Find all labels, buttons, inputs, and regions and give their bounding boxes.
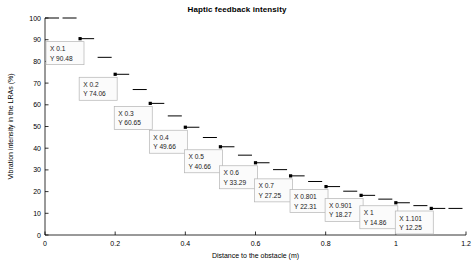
data-point-marker[interactable] — [394, 201, 397, 204]
data-point-marker[interactable] — [430, 207, 433, 210]
data-tip-x-value: X 0.901 — [329, 202, 352, 209]
data-tip[interactable]: X 0.3Y 60.65 — [114, 106, 152, 129]
data-tip[interactable]: X 0.901Y 18.27 — [325, 198, 363, 221]
x-axis-tick-label: 0.4 — [180, 240, 190, 247]
x-axis-title: Distance to the obstacle (m) — [212, 252, 299, 260]
data-tip-y-value: Y 60.65 — [118, 119, 141, 126]
data-tip-x-value: X 0.4 — [153, 134, 169, 141]
figure-container: Haptic feedback intensity 01020304050607… — [0, 0, 474, 266]
y-axis-tick-label: 40 — [33, 145, 41, 152]
data-tip-x-value: X 0.6 — [224, 169, 240, 176]
data-tip[interactable]: X 0.5Y 40.66 — [184, 150, 222, 173]
data-point-marker[interactable] — [360, 194, 363, 197]
data-tip-y-value: Y 27.25 — [259, 192, 282, 199]
data-tip-y-value: Y 90.48 — [50, 55, 73, 62]
x-axis-tick-label: 0.2 — [110, 240, 120, 247]
data-tip-y-value: Y 14.86 — [364, 219, 387, 226]
y-axis-tick-label: 80 — [33, 58, 41, 65]
data-tip-x-value: X 0.5 — [188, 153, 204, 160]
data-tip[interactable]: X 0.4Y 49.66 — [149, 130, 187, 153]
data-tip-y-value: Y 22.31 — [294, 203, 317, 210]
y-axis-tick-label: 0 — [37, 232, 41, 239]
data-tip[interactable]: X 0.7Y 27.25 — [255, 179, 293, 202]
y-axis-tick-label: 100 — [29, 15, 41, 22]
data-tip[interactable]: X 0.801Y 22.31 — [290, 190, 328, 213]
data-tip-y-value: Y 12.25 — [399, 224, 422, 231]
data-tip-annotations: X 0.1Y 90.48X 0.2Y 74.06X 0.3Y 60.65X 0.… — [46, 42, 433, 234]
x-axis-tick-label: 0.8 — [321, 240, 331, 247]
data-tip-x-value: X 0.2 — [83, 81, 99, 88]
data-tip[interactable]: X 0.2Y 74.06 — [79, 77, 117, 100]
data-point-marker[interactable] — [219, 145, 222, 148]
data-tip[interactable]: X 1.101Y 12.25 — [395, 211, 433, 234]
data-tip-y-value: Y 49.66 — [153, 143, 176, 150]
data-point-marker[interactable] — [184, 126, 187, 129]
data-tip-x-value: X 0.1 — [50, 45, 66, 52]
y-axis-tick-label: 90 — [33, 36, 41, 43]
data-point-marker[interactable] — [78, 37, 81, 40]
data-tip-x-value: X 0.7 — [259, 182, 275, 189]
data-tip-x-value: X 1 — [364, 209, 374, 216]
y-axis-title: Vibration intensity in the LRAs (%) — [7, 73, 15, 179]
x-axis-tick-label: 1.2 — [461, 240, 471, 247]
data-tip-x-value: X 0.3 — [118, 110, 134, 117]
data-point-marker[interactable] — [149, 102, 152, 105]
data-point-marker[interactable] — [114, 73, 117, 76]
data-tip[interactable]: X 0.1Y 90.48 — [46, 42, 84, 65]
chart-plot-area: 010203040506070809010000.20.40.60.811.2 … — [0, 0, 474, 266]
data-tip-y-value: Y 40.66 — [188, 163, 211, 170]
data-tip-y-value: Y 74.06 — [83, 90, 106, 97]
y-axis-tick-label: 60 — [33, 101, 41, 108]
y-axis-tick-label: 50 — [33, 123, 41, 130]
y-axis-tick-label: 70 — [33, 80, 41, 87]
data-tip-y-value: Y 18.27 — [329, 211, 352, 218]
y-axis-tick-label: 20 — [33, 188, 41, 195]
data-tip-x-value: X 0.801 — [294, 193, 317, 200]
data-point-marker[interactable] — [254, 161, 257, 164]
x-axis-tick-label: 0 — [43, 240, 47, 247]
data-point-marker[interactable] — [289, 174, 292, 177]
x-axis-tick-label: 1 — [394, 240, 398, 247]
data-tip-y-value: Y 33.29 — [224, 179, 247, 186]
x-axis-tick-label: 0.6 — [251, 240, 261, 247]
data-tip[interactable]: X 0.6Y 33.29 — [220, 166, 258, 189]
data-point-marker[interactable] — [324, 185, 327, 188]
data-tip[interactable]: X 1Y 14.86 — [360, 206, 398, 229]
y-axis-tick-label: 10 — [33, 210, 41, 217]
data-tip-x-value: X 1.101 — [399, 215, 422, 222]
y-axis-tick-label: 30 — [33, 166, 41, 173]
